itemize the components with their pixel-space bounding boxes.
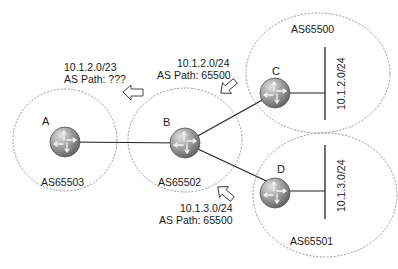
router-d-icon [260,178,290,208]
link-b-c [185,93,275,143]
advert-arrow-from-d-icon [213,181,237,204]
advert-to-a-prefix: 10.1.2.0/23 [64,61,117,73]
advert-to-a-aspath: AS Path: ??? [64,73,126,85]
as-label-a: AS65503 [41,176,84,188]
router-a-label: A [42,115,49,127]
advert-from-c-aspath: AS Path: 65500 [157,69,231,81]
router-b-icon [170,128,200,158]
advert-arrow-to-a-icon [123,85,143,100]
link-a-b [65,142,185,143]
router-d-label: D [277,163,285,175]
advert-from-c-prefix: 10.1.2.0/24 [177,57,230,69]
advert-from-d-prefix: 10.1.3.0/24 [180,202,233,214]
network-label-d: 10.1.3.0/24 [335,159,347,212]
advert-from-d-aspath: AS Path: 65500 [159,214,233,226]
router-c-label: C [272,65,280,77]
as-label-b: AS65502 [158,176,201,188]
router-b-label: B [163,116,170,128]
router-c-icon [260,78,290,108]
router-a-icon [50,127,80,157]
network-label-c: 10.1.2.0/24 [335,57,347,110]
as-label-d: AS65501 [290,235,333,247]
as-label-c: AS65500 [291,23,334,35]
